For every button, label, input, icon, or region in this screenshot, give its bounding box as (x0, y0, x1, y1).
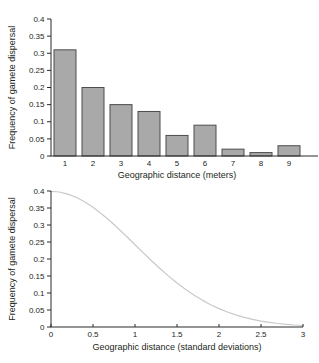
y-tick-label: 0.2 (33, 83, 45, 92)
bar-chart-y-axis-title: Frequency of gamete dispersal (7, 26, 17, 150)
x-tick-label: 0 (49, 330, 54, 339)
x-category-label: 4 (147, 159, 152, 168)
y-tick-label: 0.3 (33, 221, 45, 230)
x-tick-label: 1.5 (171, 330, 183, 339)
bar-chart-x-axis-title: Geographic distance (meters) (118, 170, 237, 180)
line-chart-figure: 00.511.522.5300.050.10.150.20.250.30.350… (0, 182, 319, 363)
y-tick-label: 0.05 (29, 306, 45, 315)
x-category-label: 5 (175, 159, 180, 168)
y-tick-label: 0.25 (29, 238, 45, 247)
bar (110, 105, 132, 156)
bar-chart-figure: 12345678900.050.10.150.20.250.30.350.4 G… (0, 0, 319, 182)
bar (222, 149, 244, 156)
x-tick-label: 1 (133, 330, 138, 339)
bar (54, 50, 76, 156)
y-tick-label: 0.3 (33, 49, 45, 58)
bar (138, 111, 160, 156)
y-tick-label: 0.4 (33, 187, 45, 196)
y-tick-label: 0.4 (33, 15, 45, 24)
line-chart-plot-area: 00.511.522.5300.050.10.150.20.250.30.350… (29, 187, 306, 339)
x-tick-label: 2.5 (255, 330, 267, 339)
x-category-label: 6 (203, 159, 208, 168)
gamete-dispersal-bar-chart: 12345678900.050.10.150.20.250.30.350.4 G… (0, 0, 319, 182)
x-category-label: 8 (259, 159, 264, 168)
y-tick-label: 0.35 (29, 204, 45, 213)
y-tick-label: 0.1 (33, 289, 45, 298)
bar-chart-plot-area: 12345678900.050.10.150.20.250.30.350.4 (29, 15, 318, 168)
y-tick-label: 0.1 (33, 117, 45, 126)
y-tick-label: 0.05 (29, 135, 45, 144)
y-tick-label: 0.2 (33, 255, 45, 264)
y-tick-label: 0.35 (29, 32, 45, 41)
bar (166, 135, 188, 156)
line-chart-x-axis-title: Geographic distance (standard deviations… (92, 342, 261, 352)
bar (250, 153, 272, 156)
bar (82, 88, 104, 157)
dispersal-curve (51, 191, 303, 325)
y-tick-label: 0 (40, 152, 45, 161)
y-tick-label: 0 (40, 323, 45, 332)
y-tick-label: 0.15 (29, 100, 45, 109)
line-chart-y-axis-title: Frequency of gamete dispersal (7, 197, 17, 321)
bar (278, 146, 300, 156)
x-category-label: 9 (287, 159, 292, 168)
y-tick-label: 0.15 (29, 272, 45, 281)
x-category-label: 3 (119, 159, 124, 168)
gamete-dispersal-curve-chart: 00.511.522.5300.050.10.150.20.250.30.350… (0, 182, 319, 363)
x-tick-label: 3 (301, 330, 306, 339)
y-tick-label: 0.25 (29, 66, 45, 75)
x-category-label: 1 (63, 159, 68, 168)
x-category-label: 7 (231, 159, 236, 168)
x-category-label: 2 (91, 159, 96, 168)
bar (194, 125, 216, 156)
x-tick-label: 2 (217, 330, 222, 339)
x-tick-label: 0.5 (87, 330, 99, 339)
figure-page: 12345678900.050.10.150.20.250.30.350.4 G… (0, 0, 319, 363)
